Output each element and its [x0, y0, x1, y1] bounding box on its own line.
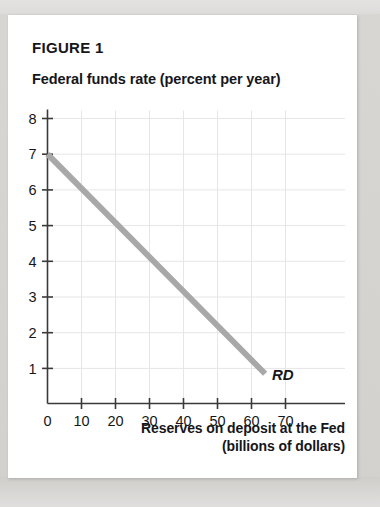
y-tick-label: 5	[28, 218, 36, 234]
y-tick-label: 7	[28, 146, 36, 162]
scanned-page-container: FIGURE 1 Federal funds rate (percent per…	[0, 0, 380, 507]
chart-svg: 12345678 010203040506070 RD	[8, 15, 357, 478]
y-tick-label: 8	[28, 111, 36, 127]
x-axis-caption-line2: (billions of dollars)	[32, 437, 345, 455]
horizontal-gridlines	[48, 119, 346, 369]
y-tick-label: 3	[28, 289, 36, 305]
x-axis-caption: Reserves on deposit at the Fed (billions…	[32, 419, 345, 455]
y-tick-label: 6	[28, 182, 36, 198]
scanner-background-bottom	[0, 477, 380, 507]
textbook-page: FIGURE 1 Federal funds rate (percent per…	[8, 15, 357, 478]
series-label-rd: RD	[272, 366, 294, 383]
y-axis-tick-labels: 12345678	[28, 111, 36, 377]
series-annotations: RD	[272, 366, 294, 383]
chart-plot-area: 12345678 010203040506070 RD	[8, 15, 357, 478]
x-axis-caption-line1: Reserves on deposit at the Fed	[32, 419, 345, 437]
y-tick-label: 2	[28, 325, 36, 341]
data-series-group	[48, 154, 266, 374]
axis-lines	[48, 110, 346, 404]
y-tick-label: 4	[28, 254, 36, 270]
series-line-rd	[48, 154, 266, 374]
y-tick-label: 1	[28, 361, 36, 377]
